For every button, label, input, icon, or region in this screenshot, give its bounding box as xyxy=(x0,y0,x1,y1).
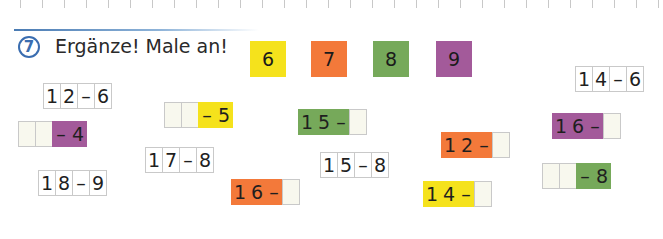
answer-input-cell[interactable] xyxy=(282,179,300,205)
legend-chip-9: 9 xyxy=(436,41,472,77)
digit-cell: 6 xyxy=(94,83,112,109)
task-16-_purple: 16– xyxy=(552,113,621,139)
answer-input-cell[interactable] xyxy=(474,181,492,207)
task-12-6: 12–6 xyxy=(43,83,112,109)
digit-cell: 6 xyxy=(569,113,587,139)
digit-cell: 8 xyxy=(196,147,214,173)
digit-cell: 1 xyxy=(320,152,338,178)
answer-input-cell[interactable] xyxy=(164,102,182,128)
exercise-instruction: Ergänze! Male an! xyxy=(55,35,228,57)
answer-input-cell[interactable] xyxy=(492,132,510,158)
section-divider xyxy=(14,29,259,31)
task-14-_yellow: 14– xyxy=(423,181,492,207)
digit-cell: 1 xyxy=(38,170,56,196)
digit-cell: 2 xyxy=(458,132,476,158)
answer-input-cell[interactable] xyxy=(18,121,36,147)
digit-cell: 7 xyxy=(162,147,180,173)
answer-input-cell[interactable] xyxy=(35,121,53,147)
task-14-6: 14–6 xyxy=(575,66,644,92)
answer-input-cell[interactable] xyxy=(603,113,621,139)
answer-input-cell[interactable] xyxy=(349,109,367,135)
digit-cell: 1 xyxy=(43,83,61,109)
task-16-_orange: 16– xyxy=(231,179,300,205)
digit-cell: 1 xyxy=(552,113,570,139)
digit-cell: 1 xyxy=(145,147,163,173)
digit-cell: 8 xyxy=(371,152,389,178)
digit-cell: 4 xyxy=(440,181,458,207)
task-18-9: 18–9 xyxy=(38,170,107,196)
digit-cell: 5 xyxy=(215,102,233,128)
digit-cell: 4 xyxy=(592,66,610,92)
legend-chip-7: 7 xyxy=(311,41,347,77)
digit-cell: 8 xyxy=(55,170,73,196)
digit-cell: 5 xyxy=(315,109,333,135)
digit-cell: – xyxy=(475,132,493,158)
digit-cell: – xyxy=(179,147,197,173)
task-15-_green: 15– xyxy=(298,109,367,135)
legend-chip-6: 6 xyxy=(250,41,286,77)
digit-cell: 5 xyxy=(337,152,355,178)
digit-cell: 4 xyxy=(69,121,87,147)
answer-input-cell[interactable] xyxy=(542,163,560,189)
digit-cell: – xyxy=(609,66,627,92)
digit-cell: 2 xyxy=(60,83,78,109)
answer-input-cell[interactable] xyxy=(559,163,577,189)
digit-cell: – xyxy=(354,152,372,178)
digit-cell: – xyxy=(198,102,216,128)
exercise-number-badge: 7 xyxy=(18,36,40,58)
digit-cell: – xyxy=(77,83,95,109)
digit-cell: – xyxy=(52,121,70,147)
task-__-5: –5 xyxy=(164,102,233,128)
digit-cell: 1 xyxy=(441,132,459,158)
page-edge-tick-marks xyxy=(0,0,663,8)
digit-cell: 6 xyxy=(248,179,266,205)
digit-cell: 1 xyxy=(298,109,316,135)
digit-cell: 1 xyxy=(423,181,441,207)
digit-cell: – xyxy=(72,170,90,196)
task-17-8: 17–8 xyxy=(145,147,214,173)
task-12-_orange: 12– xyxy=(441,132,510,158)
digit-cell: 1 xyxy=(231,179,249,205)
digit-cell: – xyxy=(457,181,475,207)
task-__-4: –4 xyxy=(18,121,87,147)
legend-chip-8: 8 xyxy=(373,41,409,77)
digit-cell: – xyxy=(332,109,350,135)
digit-cell: – xyxy=(576,163,594,189)
digit-cell: 9 xyxy=(89,170,107,196)
digit-cell: 6 xyxy=(626,66,644,92)
task-15-8: 15–8 xyxy=(320,152,389,178)
digit-cell: 8 xyxy=(593,163,611,189)
task-__-8: –8 xyxy=(542,163,611,189)
digit-cell: – xyxy=(586,113,604,139)
digit-cell: 1 xyxy=(575,66,593,92)
answer-input-cell[interactable] xyxy=(181,102,199,128)
digit-cell: – xyxy=(265,179,283,205)
